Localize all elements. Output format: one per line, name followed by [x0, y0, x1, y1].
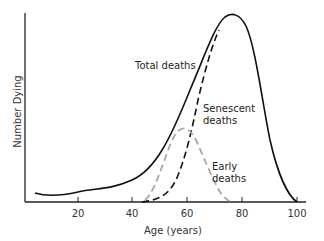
y-axis-label: Number Dying — [12, 67, 23, 157]
annotation-senescent-line1: Senescent — [203, 103, 255, 114]
x-tick-20: 20 — [72, 208, 85, 219]
x-tick-100: 100 — [287, 208, 306, 219]
chart-canvas — [0, 0, 324, 241]
x-tick-40: 40 — [126, 208, 139, 219]
total-deaths-curve — [35, 14, 297, 202]
x-tick-80: 80 — [236, 208, 249, 219]
annotation-early-line2: deaths — [212, 173, 246, 184]
annotation-total-deaths: Total deaths — [135, 60, 196, 71]
annotation-senescent-line2: deaths — [203, 115, 237, 126]
x-axis-label: Age (years) — [144, 225, 202, 236]
annotation-early-line1: Early — [212, 161, 237, 172]
x-tick-60: 60 — [181, 208, 194, 219]
x-ticks — [78, 197, 297, 202]
